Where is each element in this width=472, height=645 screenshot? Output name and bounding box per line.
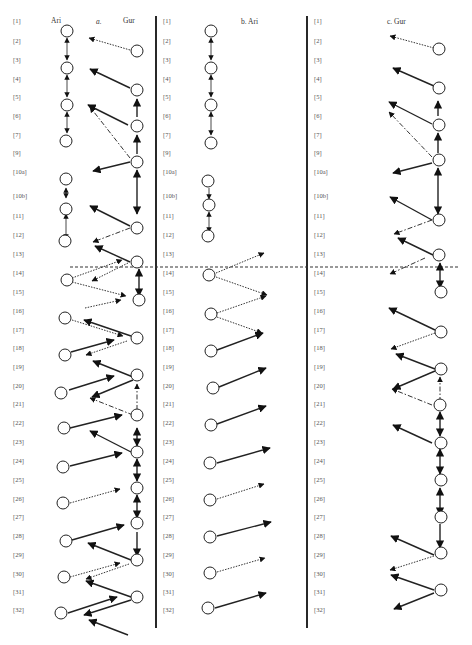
svg-text:[12]: [12]	[13, 231, 24, 239]
svg-text:[5]: [5]	[314, 93, 322, 101]
svg-text:[30]: [30]	[163, 570, 174, 578]
svg-text:[4]: [4]	[13, 75, 21, 83]
svg-text:[23]: [23]	[13, 438, 24, 446]
svg-text:[9]: [9]	[163, 149, 171, 157]
svg-text:[10b]: [10b]	[314, 192, 328, 200]
svg-text:[9]: [9]	[314, 149, 322, 157]
svg-text:[3]: [3]	[13, 56, 21, 64]
svg-text:[25]: [25]	[163, 476, 174, 484]
svg-text:[6]: [6]	[163, 112, 171, 120]
panel-c-line-labels: [1] [2] [3] [4] [5] [6] [7] [9] [10a] [1…	[314, 17, 328, 614]
svg-text:[31]: [31]	[163, 588, 174, 596]
svg-text:[10a]: [10a]	[314, 168, 328, 176]
svg-text:[15]: [15]	[13, 288, 24, 296]
svg-text:[28]: [28]	[163, 532, 174, 540]
svg-text:[11]: [11]	[163, 212, 174, 220]
svg-text:[11]: [11]	[13, 212, 24, 220]
svg-text:[21]: [21]	[13, 400, 24, 408]
svg-text:[1]: [1]	[13, 17, 21, 25]
svg-text:[7]: [7]	[314, 131, 322, 139]
svg-text:[17]: [17]	[163, 326, 174, 334]
conversation-turn-diagram: [1] [2] [3] [4] [5] [6] [7] [9] [10a] [1…	[0, 0, 472, 645]
svg-text:[2]: [2]	[13, 37, 21, 45]
svg-text:[5]: [5]	[163, 93, 171, 101]
svg-text:[22]: [22]	[314, 419, 325, 427]
svg-text:[21]: [21]	[314, 400, 325, 408]
svg-text:[10a]: [10a]	[13, 168, 27, 176]
panel-a-speaker-ari: Ari	[51, 16, 61, 25]
svg-text:[4]: [4]	[163, 75, 171, 83]
panel-a-line-labels: [1] [2] [3] [4] [5] [6] [7] [9] [10a] [1…	[13, 17, 27, 614]
svg-text:[27]: [27]	[163, 513, 174, 521]
svg-text:[19]: [19]	[163, 363, 174, 371]
svg-text:[16]: [16]	[13, 307, 24, 315]
svg-text:[6]: [6]	[314, 112, 322, 120]
svg-text:[26]: [26]	[163, 495, 174, 503]
svg-text:[15]: [15]	[163, 288, 174, 296]
svg-text:[15]: [15]	[314, 288, 325, 296]
svg-text:[19]: [19]	[314, 363, 325, 371]
svg-text:[24]: [24]	[163, 457, 174, 465]
svg-text:[26]: [26]	[13, 495, 24, 503]
svg-text:[30]: [30]	[314, 570, 325, 578]
svg-text:[3]: [3]	[314, 56, 322, 64]
svg-text:[28]: [28]	[13, 532, 24, 540]
svg-text:[26]: [26]	[314, 495, 325, 503]
svg-text:[24]: [24]	[13, 457, 24, 465]
svg-text:[12]: [12]	[163, 231, 174, 239]
svg-text:[14]: [14]	[314, 269, 325, 277]
svg-text:[27]: [27]	[13, 513, 24, 521]
panel-a-title: a.	[96, 17, 102, 26]
svg-text:[23]: [23]	[163, 438, 174, 446]
svg-text:[13]: [13]	[163, 250, 174, 258]
svg-text:[28]: [28]	[314, 532, 325, 540]
svg-text:[1]: [1]	[163, 17, 171, 25]
svg-text:[10a]: [10a]	[163, 168, 177, 176]
svg-text:[14]: [14]	[163, 269, 174, 277]
svg-text:[30]: [30]	[13, 570, 24, 578]
svg-text:[6]: [6]	[13, 112, 21, 120]
svg-text:[13]: [13]	[314, 250, 325, 258]
panel-a-speaker-gur: Gur	[123, 16, 135, 25]
svg-text:[21]: [21]	[163, 400, 174, 408]
svg-text:[27]: [27]	[314, 513, 325, 521]
svg-text:[7]: [7]	[13, 131, 21, 139]
svg-text:[32]: [32]	[13, 606, 24, 614]
svg-text:[18]: [18]	[13, 344, 24, 352]
svg-text:[20]: [20]	[13, 382, 24, 390]
panel-b-edges	[209, 38, 271, 608]
panel-b-nodes	[202, 25, 219, 614]
svg-text:[16]: [16]	[163, 307, 174, 315]
svg-text:[1]: [1]	[314, 17, 322, 25]
svg-text:[7]: [7]	[163, 131, 171, 139]
svg-text:[20]: [20]	[163, 382, 174, 390]
svg-text:[5]: [5]	[13, 93, 21, 101]
svg-text:[2]: [2]	[163, 37, 171, 45]
svg-text:[12]: [12]	[314, 231, 325, 239]
svg-text:[24]: [24]	[314, 457, 325, 465]
svg-text:[23]: [23]	[314, 438, 325, 446]
panel-c-nodes	[433, 43, 447, 596]
panel-c-title: c. Gur	[387, 17, 406, 26]
svg-text:[14]: [14]	[13, 269, 24, 277]
svg-text:[29]: [29]	[13, 551, 24, 559]
svg-text:[16]: [16]	[314, 307, 325, 315]
svg-text:[18]: [18]	[163, 344, 174, 352]
svg-text:[19]: [19]	[13, 363, 24, 371]
panel-b-line-labels: [1] [2] [3] [4] [5] [6] [7] [9] [10a] [1…	[163, 17, 177, 614]
svg-text:[18]: [18]	[314, 344, 325, 352]
panel-a-edges	[66, 38, 139, 635]
svg-text:[29]: [29]	[163, 551, 174, 559]
svg-text:[13]: [13]	[13, 250, 24, 258]
svg-text:[3]: [3]	[163, 56, 171, 64]
svg-text:[9]: [9]	[13, 149, 21, 157]
panel-c-edges	[389, 36, 440, 609]
svg-text:[22]: [22]	[163, 419, 174, 427]
svg-text:[17]: [17]	[314, 326, 325, 334]
svg-text:[31]: [31]	[13, 588, 24, 596]
svg-text:[10b]: [10b]	[163, 192, 177, 200]
svg-text:[32]: [32]	[314, 606, 325, 614]
svg-text:[20]: [20]	[314, 382, 325, 390]
svg-text:[11]: [11]	[314, 212, 325, 220]
panel-b-title: b. Ari	[241, 17, 258, 26]
